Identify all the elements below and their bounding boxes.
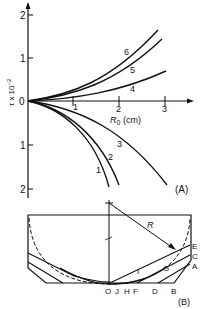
y-tick-2-up: 2: [20, 10, 26, 21]
x-tick-2: 2: [116, 104, 121, 114]
x-axis-arrow: [187, 99, 194, 104]
curve-2: [28, 101, 119, 185]
panel-a-label: (A): [175, 184, 188, 195]
radius-label: R: [147, 220, 154, 230]
label-C: C: [192, 252, 198, 261]
curve-label-3: 3: [117, 139, 122, 149]
y-tick-2-down: 2: [20, 184, 26, 195]
label-I: I: [137, 267, 139, 276]
y-tick-1-up: 1: [20, 53, 26, 64]
curve-4: [28, 71, 166, 101]
panel-a: 2 1 0 1 2 τ x 10−2 1 2 3 R0 (cm) 6 5 4 3…: [6, 2, 194, 198]
curve-6: [28, 30, 158, 101]
curve-label-5: 5: [130, 65, 135, 75]
x-tick-1: 1: [73, 102, 78, 112]
x-tick-3: 3: [162, 104, 167, 114]
curve-label-2: 2: [108, 152, 113, 162]
curve-label-4: 4: [130, 84, 135, 94]
y-axis-arrow: [26, 2, 31, 9]
label-O: O: [105, 287, 111, 296]
label-F: F: [133, 287, 138, 296]
y-tick-0: 0: [19, 96, 25, 107]
panel-b: R E C A I G O J H F D B (B): [28, 200, 198, 307]
y-axis-label: τ x 10−2: [6, 78, 16, 106]
curve-label-1: 1: [96, 165, 101, 175]
panel-b-label: (B): [178, 297, 190, 307]
label-H: H: [124, 287, 130, 296]
curve-label-6: 6: [124, 47, 129, 57]
label-A: A: [192, 262, 198, 271]
figure: 2 1 0 1 2 τ x 10−2 1 2 3 R0 (cm) 6 5 4 3…: [0, 0, 200, 309]
radius-line: [109, 203, 173, 248]
radius-arrowhead: [168, 243, 176, 250]
x-axis-label: R0 (cm): [110, 115, 141, 126]
y-tick-1-down: 1: [20, 140, 26, 151]
label-G: G: [163, 264, 169, 273]
label-B: B: [171, 287, 176, 296]
label-J: J: [115, 287, 119, 296]
label-D: D: [152, 287, 158, 296]
label-E: E: [192, 242, 197, 251]
curve-5: [28, 39, 162, 101]
